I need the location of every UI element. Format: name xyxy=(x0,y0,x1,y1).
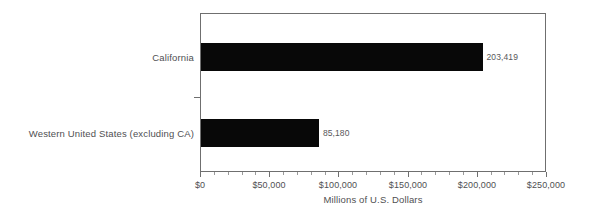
category-label-california: California xyxy=(152,52,194,63)
x-axis-tick-label: $200,000 xyxy=(458,180,496,190)
bar-california xyxy=(201,43,483,71)
x-axis-major-tick xyxy=(546,172,547,177)
x-axis-minor-tick xyxy=(255,172,256,175)
x-axis-minor-tick xyxy=(297,172,298,175)
bar-western-united-states xyxy=(201,119,319,147)
x-axis-minor-tick xyxy=(532,172,533,175)
x-axis-major-tick xyxy=(408,172,409,177)
x-axis-minor-tick xyxy=(435,172,436,175)
x-axis-title: Millions of U.S. Dollars xyxy=(200,194,546,205)
x-axis-minor-tick xyxy=(421,172,422,175)
x-axis-major-tick xyxy=(200,172,201,177)
x-axis-major-tick xyxy=(477,172,478,177)
category-label-western-united-states: Western United States (excluding CA) xyxy=(29,128,194,139)
x-axis-tick-label: $50,000 xyxy=(252,180,285,190)
x-axis-minor-tick xyxy=(504,172,505,175)
data-label-california: 203,419 xyxy=(487,52,518,62)
x-axis-tick-label: $100,000 xyxy=(319,180,357,190)
x-axis-minor-tick xyxy=(380,172,381,175)
x-axis-minor-tick xyxy=(394,172,395,175)
data-label-western-united-states: 85,180 xyxy=(323,128,350,138)
x-axis-minor-tick xyxy=(311,172,312,175)
chart-page: California Western United States (exclud… xyxy=(0,0,594,214)
x-axis-tick-label: $0 xyxy=(195,180,205,190)
x-axis-minor-tick xyxy=(518,172,519,175)
x-axis-minor-tick xyxy=(366,172,367,175)
x-axis-minor-tick xyxy=(214,172,215,175)
x-axis-minor-tick xyxy=(491,172,492,175)
plot-area xyxy=(200,13,546,172)
x-axis-tick-label: $150,000 xyxy=(389,180,427,190)
x-axis-tick-label: $250,000 xyxy=(527,180,565,190)
x-axis-minor-tick xyxy=(242,172,243,175)
x-axis-major-tick xyxy=(338,172,339,177)
x-axis-minor-tick xyxy=(463,172,464,175)
x-axis-minor-tick xyxy=(449,172,450,175)
x-axis-minor-tick xyxy=(352,172,353,175)
x-axis-minor-tick xyxy=(283,172,284,175)
x-axis-minor-tick xyxy=(325,172,326,175)
x-axis-minor-tick xyxy=(228,172,229,175)
x-axis-major-tick xyxy=(269,172,270,177)
y-axis-category-divider-tick xyxy=(194,97,201,98)
